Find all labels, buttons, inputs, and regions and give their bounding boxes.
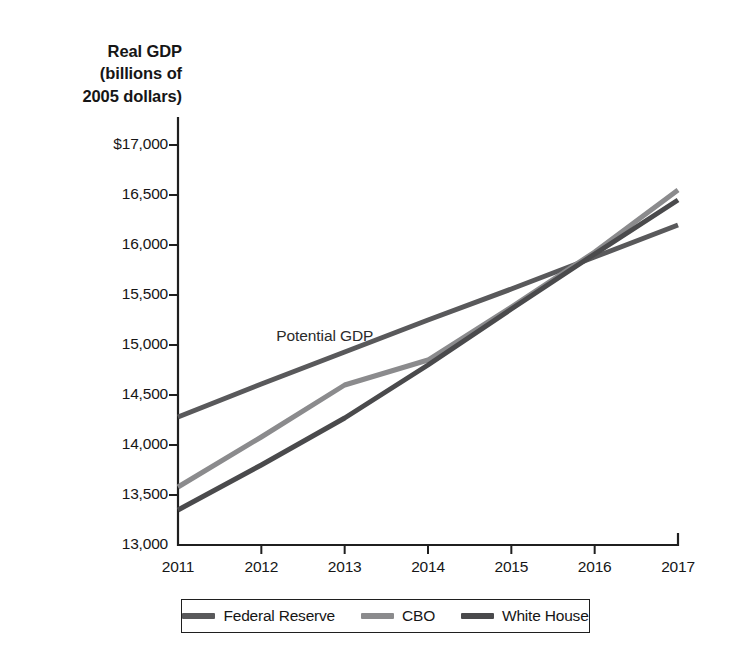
legend-entry-white-house: White House xyxy=(461,607,589,625)
x-tick-label: 2011 xyxy=(138,558,218,576)
x-tick-label: 2017 xyxy=(638,558,718,576)
legend-entry-federal-reserve: Federal Reserve xyxy=(182,607,335,625)
y-tick-label: 13,000 xyxy=(60,535,168,553)
legend-swatch-icon xyxy=(361,613,394,619)
x-tick-label: 2015 xyxy=(471,558,551,576)
legend-entry-cbo: CBO xyxy=(361,607,435,625)
x-tick-label: 2013 xyxy=(305,558,385,576)
legend-label: CBO xyxy=(402,607,435,625)
legend-label: White House xyxy=(502,607,589,625)
legend: Federal ReserveCBOWhite House xyxy=(181,599,590,633)
y-tick-label: 16,500 xyxy=(60,185,168,203)
y-tick-label: 15,000 xyxy=(60,335,168,353)
legend-swatch-icon xyxy=(461,613,494,619)
annotation-potential-gdp: Potential GDP xyxy=(276,327,373,345)
series-line-federal-reserve xyxy=(178,225,678,417)
legend-label: Federal Reserve xyxy=(223,607,335,625)
y-tick-label: 14,000 xyxy=(60,435,168,453)
y-tick-label: $17,000 xyxy=(60,135,168,153)
x-tick-label: 2012 xyxy=(221,558,301,576)
y-tick-label: 15,500 xyxy=(60,285,168,303)
series-lines xyxy=(178,190,678,510)
series-line-white-house xyxy=(178,200,678,510)
y-tick-label: 13,500 xyxy=(60,485,168,503)
y-tick-label: 16,000 xyxy=(60,235,168,253)
x-tick-label: 2014 xyxy=(388,558,468,576)
series-line-cbo xyxy=(178,190,678,487)
y-tick-label: 14,500 xyxy=(60,385,168,403)
gdp-forecast-chart: Real GDP (billions of 2005 dollars) $17,… xyxy=(0,0,729,664)
axes xyxy=(169,117,678,554)
legend-swatch-icon xyxy=(182,613,215,619)
x-tick-label: 2016 xyxy=(555,558,635,576)
